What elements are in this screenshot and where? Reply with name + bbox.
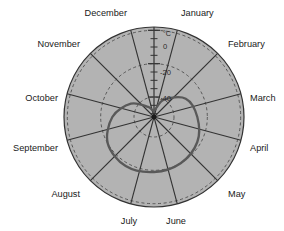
- polar-chart-svg: 0 -20 -40 °C January February March Apri…: [0, 0, 284, 231]
- month-label-february: February: [228, 39, 265, 49]
- month-label-november: November: [38, 39, 80, 49]
- month-label-september: September: [13, 143, 58, 153]
- radial-tick-label-minus40: -40: [160, 94, 171, 103]
- radial-tick-label-0: 0: [163, 42, 167, 51]
- month-label-august: August: [51, 189, 80, 199]
- month-label-october: October: [25, 93, 58, 103]
- unit-label: °C: [163, 29, 171, 38]
- month-label-march: March: [250, 93, 276, 103]
- month-label-june: June: [166, 216, 186, 226]
- month-label-december: December: [85, 8, 127, 18]
- radial-tick-label-minus20: -20: [160, 68, 171, 77]
- pole-center-marker: [152, 115, 157, 120]
- polar-temperature-chart: 0 -20 -40 °C January February March Apri…: [0, 0, 284, 231]
- month-label-january: January: [181, 8, 214, 18]
- month-label-april: April: [250, 143, 268, 153]
- month-label-may: May: [228, 189, 246, 199]
- month-label-july: July: [121, 216, 138, 226]
